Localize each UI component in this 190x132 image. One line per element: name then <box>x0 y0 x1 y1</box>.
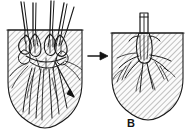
figure-container: B <box>0 0 190 132</box>
panel-label-b: B <box>127 117 135 129</box>
plant-division-diagram: B <box>0 0 190 132</box>
